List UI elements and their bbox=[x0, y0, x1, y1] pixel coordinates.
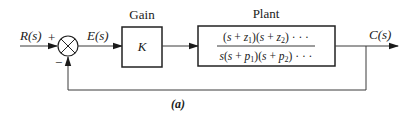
block-diagram: R(s) + − E(s) Gain K Plant (s + z1)(s + … bbox=[0, 0, 418, 116]
output-label: C(s) bbox=[369, 27, 391, 42]
plant-title: Plant bbox=[253, 6, 280, 21]
summing-junction bbox=[58, 36, 78, 56]
gain-title: Gain bbox=[129, 7, 155, 22]
input-label: R(s) bbox=[19, 28, 42, 43]
plant-denominator: s(s + p1)(s + p2) · · · bbox=[220, 50, 313, 64]
gain-value: K bbox=[137, 39, 148, 54]
plus-sign: + bbox=[48, 30, 55, 45]
error-label: E(s) bbox=[86, 28, 109, 43]
figure-caption: (a) bbox=[171, 97, 185, 111]
minus-sign: − bbox=[55, 55, 62, 70]
plant-numerator: (s + z1)(s + z2) · · · bbox=[223, 31, 309, 45]
